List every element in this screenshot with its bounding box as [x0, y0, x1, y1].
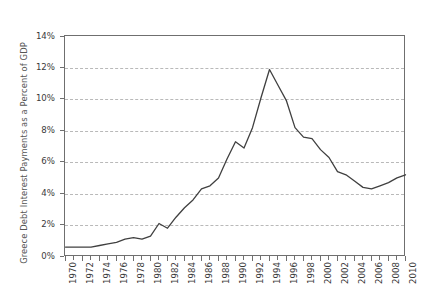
- x-tick-label: 2008: [391, 262, 401, 284]
- x-tick-mark: [354, 256, 355, 261]
- data-series-line: [65, 36, 406, 257]
- x-tick-label: 1970: [68, 262, 78, 284]
- x-tick-mark: [303, 256, 304, 261]
- x-tick-mark: [116, 256, 117, 261]
- x-tick-mark: [133, 256, 134, 261]
- greece-debt-interest-line-chart: Greece Debt Interest Payments as a Perce…: [0, 0, 424, 303]
- x-tick-label: 2010: [408, 262, 418, 284]
- x-tick-mark: [328, 256, 329, 260]
- x-tick-mark: [405, 256, 406, 261]
- y-tick-label: 2%: [21, 219, 55, 229]
- y-tick-label: 12%: [21, 62, 55, 72]
- x-tick-mark: [243, 256, 244, 260]
- x-tick-mark: [260, 256, 261, 260]
- x-tick-mark: [107, 256, 108, 260]
- x-tick-mark: [175, 256, 176, 260]
- x-tick-label: 1988: [221, 262, 231, 284]
- x-tick-label: 1986: [204, 262, 214, 284]
- x-tick-label: 1980: [153, 262, 163, 284]
- x-tick-mark: [337, 256, 338, 261]
- x-tick-mark: [99, 256, 100, 261]
- x-tick-mark: [362, 256, 363, 260]
- y-tick-label: 10%: [21, 93, 55, 103]
- x-tick-mark: [345, 256, 346, 260]
- x-tick-mark: [209, 256, 210, 260]
- x-tick-mark: [277, 256, 278, 260]
- x-tick-mark: [269, 256, 270, 261]
- y-tick-label: 8%: [21, 125, 55, 135]
- y-axis-ticks: 0%2%4%6%8%10%12%14%: [0, 35, 64, 256]
- x-axis-labels: 1970197219741976197819801982198419861988…: [64, 262, 405, 303]
- y-tick-label: 14%: [21, 31, 55, 41]
- x-tick-label: 2002: [340, 262, 350, 284]
- x-tick-label: 1996: [289, 262, 299, 284]
- x-tick-mark: [124, 256, 125, 260]
- x-tick-label: 1990: [238, 262, 248, 284]
- x-tick-label: 1978: [136, 262, 146, 284]
- x-tick-label: 1974: [102, 262, 112, 284]
- x-tick-mark: [150, 256, 151, 261]
- x-tick-label: 2006: [374, 262, 384, 284]
- y-tick-label: 4%: [21, 188, 55, 198]
- x-tick-mark: [90, 256, 91, 260]
- x-tick-mark: [320, 256, 321, 261]
- y-tick-label: 0%: [21, 251, 55, 261]
- x-tick-mark: [252, 256, 253, 261]
- x-tick-label: 1994: [272, 262, 282, 284]
- y-tick-label: 6%: [21, 156, 55, 166]
- x-tick-mark: [167, 256, 168, 261]
- x-tick-label: 2000: [323, 262, 333, 284]
- x-tick-mark: [294, 256, 295, 260]
- x-tick-label: 1998: [306, 262, 316, 284]
- x-tick-label: 1992: [255, 262, 265, 284]
- plot-area: [64, 35, 405, 256]
- x-tick-mark: [371, 256, 372, 261]
- x-tick-mark: [65, 256, 66, 261]
- x-tick-mark: [158, 256, 159, 260]
- x-tick-mark: [73, 256, 74, 260]
- x-tick-mark: [192, 256, 193, 260]
- x-tick-mark: [218, 256, 219, 261]
- x-tick-mark: [286, 256, 287, 261]
- x-tick-label: 1972: [85, 262, 95, 284]
- x-tick-mark: [379, 256, 380, 260]
- x-tick-mark: [184, 256, 185, 261]
- x-tick-label: 2004: [357, 262, 367, 284]
- x-tick-mark: [235, 256, 236, 261]
- x-tick-mark: [201, 256, 202, 261]
- x-tick-mark: [226, 256, 227, 260]
- x-tick-mark: [396, 256, 397, 260]
- x-tick-mark: [82, 256, 83, 261]
- x-tick-mark: [388, 256, 389, 261]
- x-tick-mark: [311, 256, 312, 260]
- x-tick-label: 1984: [187, 262, 197, 284]
- x-tick-mark: [141, 256, 142, 260]
- x-tick-label: 1982: [170, 262, 180, 284]
- x-tick-label: 1976: [119, 262, 129, 284]
